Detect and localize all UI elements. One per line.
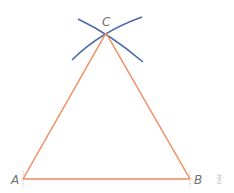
- side-bc: [106, 33, 190, 179]
- label-a: A: [10, 173, 19, 187]
- side-ac: [23, 33, 106, 179]
- construction-diagram: A B C DAE: [0, 0, 234, 193]
- watermark: DAE: [216, 174, 222, 184]
- label-c: C: [102, 15, 111, 29]
- diagram-canvas: A B C DAE: [0, 0, 234, 193]
- label-b: B: [194, 173, 202, 187]
